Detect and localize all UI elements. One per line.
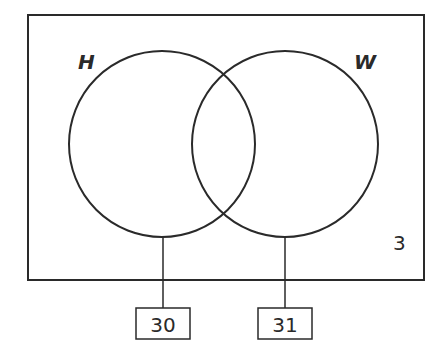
callout-value-w: 31 [272, 313, 297, 337]
outside-count: 3 [393, 231, 406, 255]
set-w-label: W [354, 50, 377, 74]
set-h-circle [69, 51, 255, 237]
venn-diagram: H W 3 30 31 [0, 0, 441, 363]
set-w-circle [192, 51, 378, 237]
callout-value-h: 30 [150, 313, 175, 337]
set-h-label: H [78, 50, 95, 74]
